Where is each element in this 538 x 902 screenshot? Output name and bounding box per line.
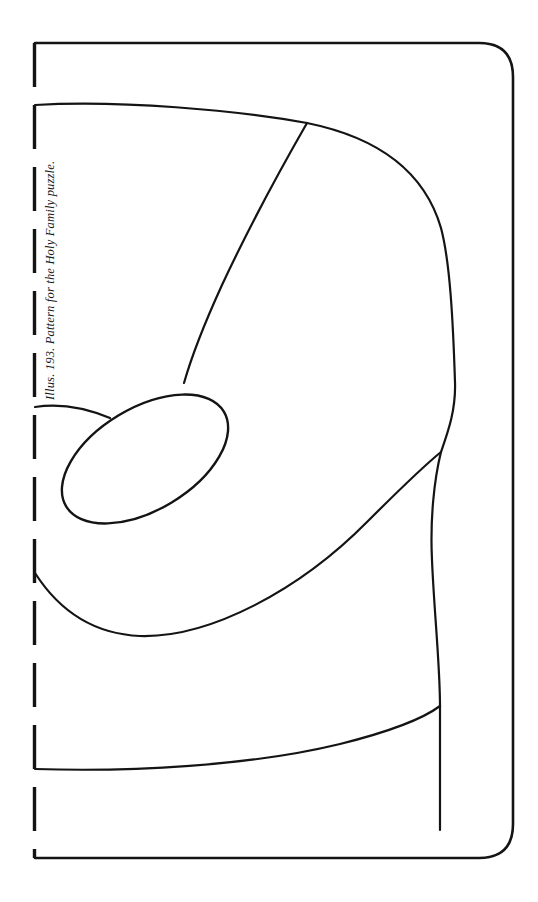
base-curve bbox=[35, 706, 440, 770]
shoulder-notch-curve bbox=[35, 406, 110, 418]
head-oval-piece bbox=[40, 368, 250, 550]
pattern-figure bbox=[0, 0, 538, 902]
right-edge-curve bbox=[431, 382, 455, 830]
central-divider-curve bbox=[184, 123, 307, 383]
upper-body-curve bbox=[35, 104, 455, 382]
lower-body-curve bbox=[35, 452, 441, 636]
illustration-page: Illus. 193. Pattern for the Holy Family … bbox=[0, 0, 538, 902]
